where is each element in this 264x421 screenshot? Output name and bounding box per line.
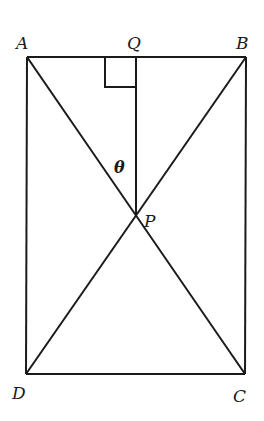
right-angle-marker: [105, 57, 136, 87]
label-b: B: [235, 33, 249, 53]
label-c: C: [233, 386, 246, 406]
label-p: P: [143, 211, 156, 231]
side-bc: [245, 57, 246, 374]
label-q: Q: [127, 33, 141, 53]
angle-theta-label: θ: [114, 158, 125, 177]
label-a: A: [14, 33, 28, 53]
label-d: D: [11, 383, 26, 403]
side-da: [26, 57, 27, 374]
geometry-diagram: A Q B P D C θ: [0, 0, 264, 421]
